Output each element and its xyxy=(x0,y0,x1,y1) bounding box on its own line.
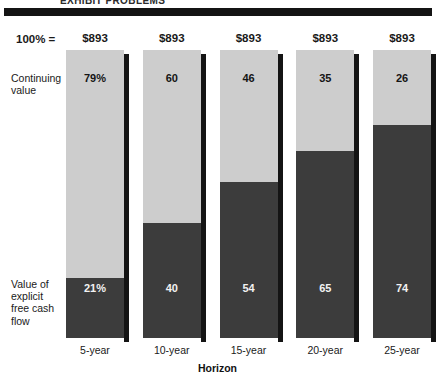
bar-drop-shadow xyxy=(354,54,359,342)
bar-column: $89379%21%5-year xyxy=(66,50,124,338)
legend-label-explicit-free-cash-flow: Value of explicit free cash flow xyxy=(11,278,67,327)
bar-segment-value: 74 xyxy=(373,282,431,294)
bar-total-label: $893 xyxy=(143,32,201,44)
bar-segment-value: 60 xyxy=(143,72,201,84)
x-axis-tick-label: 15-year xyxy=(212,344,286,356)
bar-segment-continuing-value[interactable]: 35 xyxy=(296,50,354,151)
legend-explicit-line1: Value of xyxy=(11,278,67,290)
bar-column: $893465415-year xyxy=(220,50,278,338)
bar-total-label: $893 xyxy=(373,32,431,44)
bar-segment-value: 46 xyxy=(220,72,278,84)
legend-continuing-value-line1: Continuing xyxy=(11,72,67,84)
bar-segment-value: 40 xyxy=(143,282,201,294)
plot-area: $89379%21%5-year$893604010-year$89346541… xyxy=(66,50,431,338)
bar-stack[interactable]: 79%21% xyxy=(66,50,124,338)
bar-stack[interactable]: 3565 xyxy=(296,50,354,338)
bar-segment-value: 79% xyxy=(66,72,124,84)
bar-stack[interactable]: 6040 xyxy=(143,50,201,338)
legend-explicit-line4: flow xyxy=(11,315,67,327)
bar-segment-explicit-free-cash-flow[interactable]: 21% xyxy=(66,278,124,338)
x-axis-tick-label: 25-year xyxy=(365,344,439,356)
x-axis-title: Horizon xyxy=(0,362,435,374)
legend-continuing-value-line2: value xyxy=(11,84,67,96)
bar-stack[interactable]: 4654 xyxy=(220,50,278,338)
bar-segment-explicit-free-cash-flow[interactable]: 54 xyxy=(220,182,278,338)
legend-label-continuing-value: Continuing value xyxy=(11,72,67,96)
x-axis-tick-label: 5-year xyxy=(58,344,132,356)
bar-segment-value: 26 xyxy=(373,72,431,84)
title-divider-rule xyxy=(4,8,432,16)
bar-drop-shadow xyxy=(278,54,283,342)
bar-segment-value: 35 xyxy=(296,72,354,84)
bar-drop-shadow xyxy=(124,54,129,342)
bar-segment-continuing-value[interactable]: 46 xyxy=(220,50,278,182)
exhibit-title: EXHIBIT PROBLEMS xyxy=(60,0,165,6)
bar-segment-value: 54 xyxy=(220,282,278,294)
bar-total-label: $893 xyxy=(66,32,124,44)
bar-segment-explicit-free-cash-flow[interactable]: 74 xyxy=(373,125,431,338)
total-basis-label: 100% = xyxy=(16,33,55,45)
x-axis-tick-label: 20-year xyxy=(288,344,362,356)
bar-segment-continuing-value[interactable]: 26 xyxy=(373,50,431,125)
legend-explicit-line3: free cash xyxy=(11,302,67,314)
x-axis-tick-label: 10-year xyxy=(135,344,209,356)
bar-segment-continuing-value[interactable]: 60 xyxy=(143,50,201,223)
bar-stack[interactable]: 2674 xyxy=(373,50,431,338)
legend-explicit-line2: explicit xyxy=(11,290,67,302)
bar-column: $893267425-year xyxy=(373,50,431,338)
bar-column: $893356520-year xyxy=(296,50,354,338)
bar-segment-continuing-value[interactable]: 79% xyxy=(66,50,124,278)
bar-column: $893604010-year xyxy=(143,50,201,338)
bar-drop-shadow xyxy=(201,54,206,342)
bar-total-label: $893 xyxy=(220,32,278,44)
bar-segment-value: 65 xyxy=(296,282,354,294)
bar-segment-explicit-free-cash-flow[interactable]: 40 xyxy=(143,223,201,338)
bar-drop-shadow xyxy=(431,54,436,342)
bar-segment-explicit-free-cash-flow[interactable]: 65 xyxy=(296,151,354,338)
bar-total-label: $893 xyxy=(296,32,354,44)
exhibit-title-strip: EXHIBIT PROBLEMS xyxy=(0,0,435,7)
bar-segment-value: 21% xyxy=(66,282,124,294)
